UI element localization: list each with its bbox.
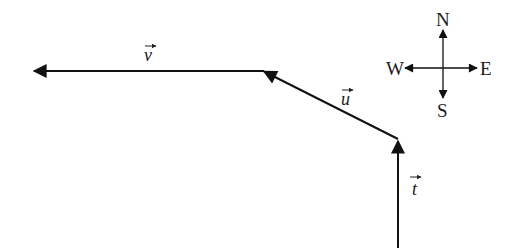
vector-v-label: v xyxy=(144,45,152,65)
compass-east-label: E xyxy=(480,58,492,79)
compass-north-label: N xyxy=(436,9,450,30)
diagram-svg: t u v N S E W xyxy=(0,0,510,249)
compass-rose: N S E W xyxy=(386,9,492,121)
vector-t-label: t xyxy=(412,179,418,199)
vector-u-label: u xyxy=(341,89,350,109)
vector-u: u xyxy=(264,72,398,140)
compass-south-label: S xyxy=(437,100,448,121)
vector-diagram: t u v N S E W xyxy=(0,0,510,249)
vector-v: v xyxy=(34,45,264,71)
compass-west-label: W xyxy=(386,58,404,79)
vector-t: t xyxy=(398,141,421,248)
